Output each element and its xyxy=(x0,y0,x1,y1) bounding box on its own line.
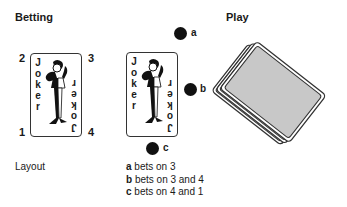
position-label-1: 1 xyxy=(19,126,25,138)
chip-label-b: b xyxy=(200,83,206,94)
position-label-2: 2 xyxy=(19,52,25,64)
jester-figure-icon xyxy=(41,58,73,134)
card-deck-stack xyxy=(220,30,347,150)
bet-legend: a bets on 3 b bets on 3 and 4 c bets on … xyxy=(126,161,204,199)
joker-card-layout: Joker Joker xyxy=(30,53,82,137)
chip-label-c: c xyxy=(163,142,169,153)
deck-card-top xyxy=(220,41,326,142)
layout-caption: Layout xyxy=(15,161,45,173)
legend-item-c: c bets on 4 and 1 xyxy=(126,186,204,199)
chip-b xyxy=(184,83,197,96)
joker-card-betting: Joker Joker xyxy=(126,52,178,137)
chip-label-a: a xyxy=(191,27,197,38)
position-label-3: 3 xyxy=(88,52,94,64)
position-label-4: 4 xyxy=(88,126,94,138)
chip-a xyxy=(174,27,187,40)
legend-item-b: b bets on 3 and 4 xyxy=(126,174,204,187)
jester-figure-icon xyxy=(137,57,169,133)
legend-item-a: a bets on 3 xyxy=(126,161,204,174)
chip-c xyxy=(146,142,159,155)
play-heading: Play xyxy=(226,11,249,23)
betting-heading: Betting xyxy=(15,11,53,23)
